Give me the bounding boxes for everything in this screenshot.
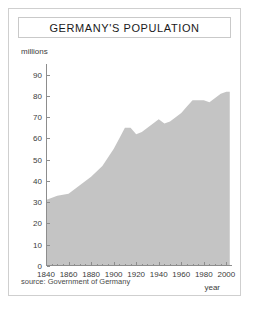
x-tick-mark-major: [226, 262, 227, 266]
x-tick-mark-minor: [131, 264, 132, 266]
x-tick-mark-major: [136, 262, 137, 266]
x-tick-mark-minor: [97, 264, 98, 266]
source-note: source: Government of Germany: [21, 277, 130, 286]
x-tick-mark-minor: [215, 264, 216, 266]
x-tick-mark-minor: [198, 264, 199, 266]
page-title: GERMANY'S POPULATION: [49, 22, 199, 34]
x-tick-mark-minor: [221, 264, 222, 266]
y-tick-mark: [47, 138, 50, 139]
x-tick-mark-minor: [164, 264, 165, 266]
y-tick-label: 40: [33, 176, 42, 185]
x-tick-mark-major: [91, 262, 92, 266]
x-tick-mark-minor: [74, 264, 75, 266]
y-tick-mark: [47, 160, 50, 161]
x-tick-mark-minor: [147, 264, 148, 266]
x-tick-mark-minor: [108, 264, 109, 266]
y-tick-label: 20: [33, 219, 42, 228]
x-tick-mark-minor: [119, 264, 120, 266]
y-tick-label: 90: [33, 70, 42, 79]
y-tick-mark: [47, 245, 50, 246]
y-tick-label: 50: [33, 155, 42, 164]
y-tick-mark: [47, 266, 50, 267]
chart-figure: GERMANY'S POPULATION millions 0102030405…: [8, 8, 241, 296]
population-area-series: [46, 64, 232, 266]
x-tick-mark-major: [181, 262, 182, 266]
x-tick-label: 1980: [195, 270, 213, 279]
y-tick-mark: [47, 223, 50, 224]
y-tick-mark: [47, 96, 50, 97]
y-tick-label: 60: [33, 134, 42, 143]
chart-title-box: GERMANY'S POPULATION: [18, 17, 231, 38]
x-tick-mark-minor: [125, 264, 126, 266]
plot-area: 0102030405060708090 18401860188019001920…: [46, 64, 232, 266]
y-axis-line: [46, 64, 47, 266]
x-tick-mark-major: [114, 262, 115, 266]
y-tick-label: 70: [33, 113, 42, 122]
y-tick-label: 80: [33, 91, 42, 100]
x-tick-label: 1940: [150, 270, 168, 279]
x-tick-mark-minor: [63, 264, 64, 266]
x-tick-mark-minor: [80, 264, 81, 266]
x-tick-mark-minor: [57, 264, 58, 266]
x-tick-mark-minor: [142, 264, 143, 266]
x-tick-mark-minor: [176, 264, 177, 266]
x-tick-mark-major: [69, 262, 70, 266]
x-tick-mark-minor: [187, 264, 188, 266]
y-axis-unit-label: millions: [21, 47, 48, 56]
x-tick-mark-minor: [193, 264, 194, 266]
x-tick-mark-minor: [102, 264, 103, 266]
x-tick-mark-major: [46, 262, 47, 266]
y-tick-mark: [47, 117, 50, 118]
x-tick-mark-minor: [209, 264, 210, 266]
y-tick-label: 10: [33, 240, 42, 249]
x-tick-mark-minor: [170, 264, 171, 266]
x-tick-mark-minor: [85, 264, 86, 266]
y-tick-mark: [47, 181, 50, 182]
y-tick-mark: [47, 75, 50, 76]
x-tick-label: 2000: [217, 270, 235, 279]
x-tick-mark-major: [159, 262, 160, 266]
x-tick-mark-minor: [52, 264, 53, 266]
x-tick-mark-major: [204, 262, 205, 266]
x-tick-label: 1960: [172, 270, 190, 279]
y-tick-mark: [47, 202, 50, 203]
y-tick-label: 30: [33, 198, 42, 207]
x-tick-mark-minor: [153, 264, 154, 266]
x-axis-title: year: [204, 283, 220, 292]
